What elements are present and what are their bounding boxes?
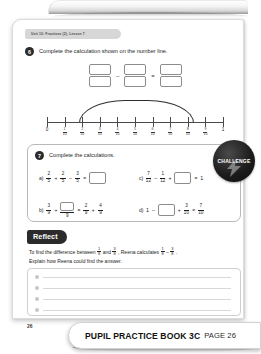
question-6-number: 6	[25, 47, 34, 56]
equals-operator: =	[150, 73, 156, 79]
running-head-tab: Unit 10: Fractions (2), Lesson 7	[25, 29, 121, 39]
number-line-tick	[65, 117, 66, 127]
fraction-input-2[interactable]	[124, 64, 146, 87]
calculations-grid: a)25+25–35=c)712–112+=1b)39+9=29+49d)1–+…	[35, 167, 235, 221]
reflect-fraction-4: 3 8	[170, 247, 174, 256]
denominator-input-2[interactable]	[124, 76, 146, 87]
question-7-number: 7	[35, 151, 44, 160]
number-line-tick	[188, 117, 189, 127]
answer-line[interactable]	[35, 297, 231, 301]
numerator: 7	[147, 172, 150, 177]
minus-operator: –	[115, 73, 120, 79]
writing-rule	[43, 288, 231, 289]
number-line-label-fraction: 210	[80, 128, 84, 136]
fraction-input-3[interactable]	[160, 64, 182, 87]
operator-symbol: +	[54, 207, 58, 213]
question-6-answer-boxes: – =	[89, 64, 182, 87]
fraction: 49	[98, 204, 104, 215]
fraction: 35	[75, 172, 81, 183]
fraction: 25	[46, 172, 52, 183]
fraction: 712	[146, 172, 152, 183]
operator-symbol: =	[192, 207, 196, 213]
denominator: 9	[85, 211, 88, 216]
answer-line[interactable]	[35, 275, 231, 279]
tick-denominator: 10	[98, 133, 102, 137]
numerator: 3	[47, 204, 50, 209]
bullet-dot-icon	[35, 297, 39, 301]
number-line-tick	[47, 117, 48, 127]
operator-symbol: +	[168, 175, 172, 181]
operator-symbol: =	[77, 207, 81, 213]
footer-banner: PUPIL PRACTICE BOOK 3C PAGE 26	[68, 322, 261, 349]
number-line-label-fraction: 710	[168, 128, 172, 136]
number-line-tick	[135, 117, 136, 127]
running-head-label: Unit 10: Fractions (2), Lesson 7	[31, 32, 85, 36]
numerator-input-1[interactable]	[89, 64, 111, 75]
numerator: 7	[200, 204, 203, 209]
answer-line[interactable]	[35, 286, 231, 290]
footer-page-label: PAGE 26	[204, 331, 236, 340]
reflect-text-a: To find the difference between	[29, 249, 96, 255]
tick-denominator: 10	[186, 133, 190, 137]
tick-denominator: 10	[168, 133, 172, 137]
numerator: 1	[161, 172, 164, 177]
denominator: 9	[66, 213, 69, 218]
denominator: 12	[146, 179, 151, 184]
numerator: 3	[185, 204, 188, 209]
number-line-label-whole: 1	[222, 128, 225, 133]
fraction-input-1[interactable]	[89, 64, 111, 87]
question-6-header: 6 Complete the calculation shown on the …	[25, 47, 167, 56]
number-line-label-fraction: 410	[115, 128, 119, 136]
numerator: 2	[47, 172, 50, 177]
operator-symbol: =	[83, 175, 87, 181]
reflect-answer-box[interactable]	[27, 268, 241, 316]
writing-rule	[43, 277, 231, 278]
bullet-dot-icon	[35, 308, 39, 312]
reflect-frac3-den: 8	[162, 252, 164, 256]
denominator-input-1[interactable]	[89, 76, 111, 87]
fraction: 310	[184, 204, 190, 215]
number-line-tick	[82, 117, 83, 127]
denominator: 5	[62, 179, 65, 184]
fraction: 29	[83, 204, 89, 215]
numerator: 3	[76, 172, 79, 177]
numerator-input-box[interactable]	[60, 202, 74, 211]
number-line-tick	[100, 117, 101, 127]
answer-input-box[interactable]	[174, 172, 191, 184]
jump-arc	[79, 100, 194, 123]
answer-line[interactable]	[35, 308, 231, 312]
number-line-tick	[223, 117, 224, 127]
reflect-fraction-1: 1 8	[97, 247, 101, 256]
number-line-tick	[205, 117, 206, 127]
calculation-item: b)39+9=29+49	[35, 199, 135, 221]
operator-symbol: =	[194, 175, 198, 181]
denominator: 5	[47, 179, 50, 184]
fraction: 710	[198, 204, 204, 215]
numerator-input-3[interactable]	[160, 64, 182, 75]
tick-denominator: 10	[80, 133, 84, 137]
reflect-fraction-2: 3 8	[112, 247, 116, 256]
denominator-input-3[interactable]	[160, 76, 182, 87]
calculation-item: a)25+25–35=	[35, 167, 135, 189]
numerator-input-2[interactable]	[124, 64, 146, 75]
previous-page-shadow	[52, 12, 250, 17]
whole-number: 1	[146, 207, 149, 213]
number-line-label-fraction: 310	[98, 128, 102, 136]
number-line: 01102103104105106107108109101	[27, 100, 237, 140]
fraction-with-answer-box[interactable]: 9	[60, 202, 74, 218]
answer-input-box[interactable]	[158, 204, 175, 216]
writing-rule	[43, 299, 231, 300]
denominator: 10	[198, 211, 203, 216]
tick-denominator: 10	[115, 133, 119, 137]
calculation-label: a)	[39, 175, 43, 181]
number-line-label-whole: 0	[46, 128, 49, 133]
numerator: 4	[99, 204, 102, 209]
writing-rule	[43, 310, 231, 311]
calculation-label: d)	[139, 207, 143, 213]
answer-input-box[interactable]	[89, 172, 106, 184]
denominator: 10	[184, 211, 189, 216]
reflect-text-e: .	[176, 249, 177, 255]
denominator: 12	[160, 179, 165, 184]
numerator: 2	[85, 204, 88, 209]
calculation-item: d)1–+310=710	[135, 199, 235, 221]
